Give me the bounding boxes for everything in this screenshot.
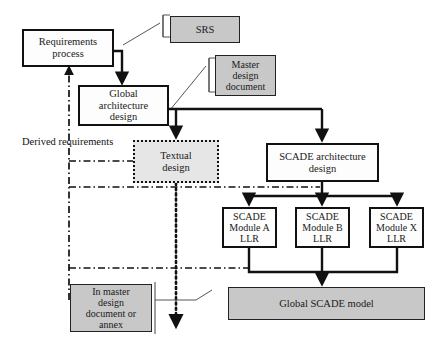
edge-scade-architecture-to-modules	[249, 182, 397, 203]
node-scade-module-a: SCADE Module A LLR	[222, 207, 277, 248]
node-textual-design: Textual design	[133, 140, 219, 183]
node-scade-architecture: SCADE architecture design	[266, 143, 379, 182]
leader-in-master-design-document	[155, 282, 212, 334]
node-scade-module-x: SCADE Module X LLR	[369, 207, 424, 248]
diagram-canvas: Requirements processSRSGlobal architectu…	[0, 0, 442, 351]
node-global-architecture: Global architecture design	[78, 85, 169, 126]
edge-global-architecture-bus	[169, 109, 322, 139]
node-scade-module-b: SCADE Module B LLR	[295, 207, 350, 248]
node-srs: SRS	[170, 16, 240, 43]
node-master-design-document: Master design document	[215, 55, 276, 96]
derived-requirements-label: Derived requirements	[22, 136, 113, 147]
node-requirements-process: Requirements process	[22, 29, 114, 67]
node-in-master-design: In master design document or annex	[70, 284, 152, 332]
leader-requirements-to-srs	[123, 15, 170, 45]
edge-requirements-to-global-architecture	[113, 51, 122, 82]
node-global-scade-model: Global SCADE model	[228, 287, 425, 320]
edge-modules-to-global-scade-model	[249, 248, 397, 283]
leader-global-architecture-to-master-document	[170, 58, 215, 110]
